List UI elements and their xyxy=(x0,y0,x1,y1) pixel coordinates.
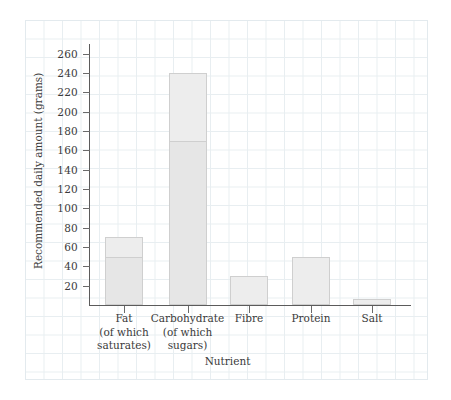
category-label-0-line1: Fat xyxy=(115,312,132,324)
y-tick-label-140: 140 xyxy=(57,165,78,176)
y-tick-120 xyxy=(83,189,90,190)
y-axis-title: Recommended daily amount (grams) xyxy=(32,79,44,269)
plot-area: Recommended daily amount (grams) 2040608… xyxy=(0,0,451,400)
y-tick-160 xyxy=(83,150,90,151)
category-label-2-line1: Fibre xyxy=(235,312,264,324)
bar-4 xyxy=(353,299,391,305)
y-tick-label-260: 260 xyxy=(57,49,78,60)
y-tick-200 xyxy=(83,112,90,113)
y-tick-label-240: 240 xyxy=(57,68,78,79)
y-tick-label-40: 40 xyxy=(64,261,78,272)
bar-1-sub-segment xyxy=(169,141,207,305)
y-tick-label-200: 200 xyxy=(57,107,78,118)
category-label-4-line1: Salt xyxy=(361,312,382,324)
y-tick-label-80: 80 xyxy=(64,223,78,234)
y-tick-label-120: 120 xyxy=(57,184,78,195)
y-tick-label-160: 160 xyxy=(57,145,78,156)
chart-figure: Recommended daily amount (grams) 2040608… xyxy=(0,0,451,400)
y-tick-220 xyxy=(83,92,90,93)
y-tick-40 xyxy=(83,266,90,267)
y-tick-20 xyxy=(83,286,90,287)
y-tick-label-100: 100 xyxy=(57,203,78,214)
x-axis-title-text: Nutrient xyxy=(205,355,251,367)
category-label-1-line3: sugars) xyxy=(143,339,233,353)
y-tick-100 xyxy=(83,208,90,209)
bar-2 xyxy=(230,276,268,305)
y-tick-label-180: 180 xyxy=(57,126,78,137)
y-tick-80 xyxy=(83,228,90,229)
bar-0-sub-segment xyxy=(105,257,143,305)
bar-3 xyxy=(292,257,330,305)
category-label-4: Salt xyxy=(327,312,417,326)
x-axis-title: Nutrient xyxy=(0,355,451,367)
y-tick-label-20: 20 xyxy=(64,281,78,292)
y-tick-140 xyxy=(83,170,90,171)
bar-1 xyxy=(169,73,207,305)
category-label-1-line2: (of which xyxy=(143,326,233,340)
y-tick-60 xyxy=(83,247,90,248)
y-tick-label-60: 60 xyxy=(64,242,78,253)
y-tick-240 xyxy=(83,73,90,74)
category-label-3-line1: Protein xyxy=(292,312,331,324)
x-axis-line xyxy=(89,305,411,306)
y-tick-260 xyxy=(83,54,90,55)
y-tick-180 xyxy=(83,131,90,132)
y-tick-label-220: 220 xyxy=(57,87,78,98)
bar-0 xyxy=(105,237,143,305)
